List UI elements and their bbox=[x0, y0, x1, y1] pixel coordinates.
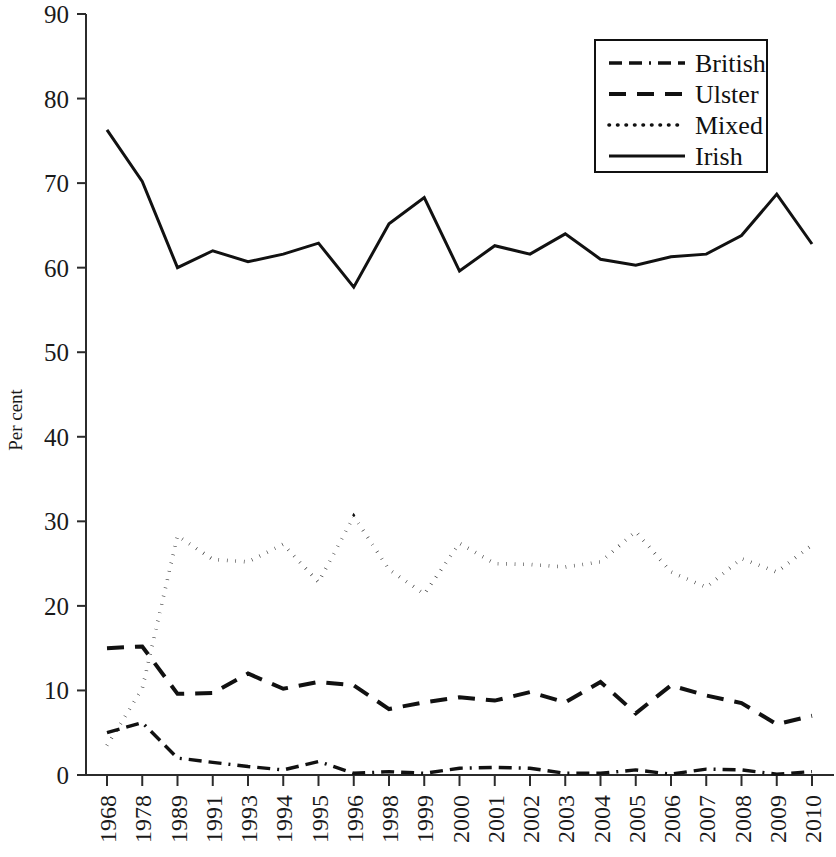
x-tick-label: 2009 bbox=[765, 795, 791, 843]
x-tick-label: 2000 bbox=[448, 795, 474, 843]
x-tick-label: 2010 bbox=[800, 795, 826, 843]
y-axis: 0102030405060708090 bbox=[44, 1, 86, 789]
y-tick-label: 30 bbox=[44, 508, 69, 535]
x-tick-label: 1999 bbox=[412, 795, 438, 843]
legend-label-ulster: Ulster bbox=[695, 80, 759, 109]
x-tick-label: 1994 bbox=[271, 795, 297, 843]
x-tick-label: 2001 bbox=[483, 795, 509, 843]
legend-label-mixed: Mixed bbox=[695, 111, 763, 140]
x-tick-label: 2007 bbox=[694, 795, 720, 843]
legend-label-british: British bbox=[695, 49, 766, 78]
y-tick-label: 0 bbox=[57, 762, 70, 789]
x-tick-label: 2003 bbox=[553, 795, 579, 843]
x-tick-label: 1978 bbox=[130, 795, 156, 843]
y-tick-label: 90 bbox=[44, 1, 69, 28]
y-tick-label: 10 bbox=[44, 677, 69, 704]
y-tick-label: 50 bbox=[44, 339, 69, 366]
x-tick-label: 2005 bbox=[624, 795, 650, 843]
x-tick-label: 1989 bbox=[166, 795, 192, 843]
y-tick-label: 80 bbox=[44, 86, 69, 113]
series-line-british bbox=[107, 723, 812, 775]
x-tick-label: 1968 bbox=[95, 795, 121, 843]
chart-container: 0102030405060708090 19681978198919911993… bbox=[0, 0, 836, 857]
y-tick-label: 40 bbox=[44, 424, 69, 451]
x-tick-label: 1991 bbox=[201, 795, 227, 843]
x-tick-label: 2002 bbox=[518, 795, 544, 843]
chart-legend: BritishUlsterMixedIrish bbox=[595, 40, 767, 172]
series-lines bbox=[107, 130, 812, 774]
series-line-ulster bbox=[107, 646, 812, 724]
y-tick-label: 20 bbox=[44, 593, 69, 620]
x-tick-label: 2004 bbox=[589, 795, 615, 843]
x-tick-label: 2006 bbox=[659, 795, 685, 843]
y-axis-title: Per cent bbox=[5, 388, 26, 450]
x-tick-label: 2008 bbox=[730, 795, 756, 843]
y-tick-label: 70 bbox=[44, 170, 69, 197]
x-tick-label: 1998 bbox=[377, 795, 403, 843]
x-tick-label: 1993 bbox=[236, 795, 262, 843]
line-chart: 0102030405060708090 19681978198919911993… bbox=[0, 0, 836, 857]
x-tick-label: 1996 bbox=[342, 795, 368, 843]
y-tick-label: 60 bbox=[44, 255, 69, 282]
series-line-mixed bbox=[107, 516, 812, 745]
x-tick-label: 1995 bbox=[307, 795, 333, 843]
x-axis: 1968197819891991199319941995199619981999… bbox=[86, 775, 834, 843]
legend-label-irish: Irish bbox=[695, 142, 743, 171]
